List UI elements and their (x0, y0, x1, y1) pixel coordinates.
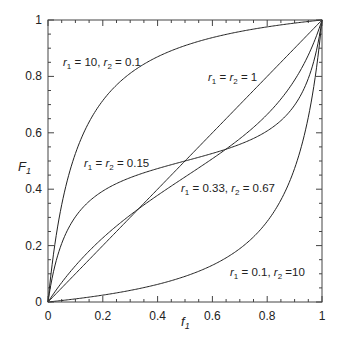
copolymer-composition-chart: 00.20.40.60.81 00.20.40.60.81 r1 = 10, r… (0, 0, 338, 343)
curve-annotation: r1 = 0.33, r2 = 0.67 (181, 182, 275, 197)
x-axis-title: f1 (181, 314, 190, 331)
x-tick-label: 0.8 (259, 309, 276, 323)
x-tick-label: 0.2 (94, 309, 111, 323)
y-tick-label: 0 (35, 295, 42, 309)
y-tick-label: 0.2 (25, 239, 42, 253)
y-tick-label: 0.4 (25, 182, 42, 196)
curve-annotation: r1 = r2 = 0.15 (84, 157, 149, 172)
y-tick-label: 0.6 (25, 126, 42, 140)
y-tick-label: 1 (35, 13, 42, 27)
y-tick-label: 0.8 (25, 69, 42, 83)
curve-annotation: r1 = r2 = 1 (208, 71, 257, 86)
y-axis-title: F1 (18, 159, 31, 176)
x-tick-label: 0 (45, 309, 52, 323)
y-tick-labels: 00.20.40.60.81 (25, 13, 42, 309)
x-tick-label: 0.6 (204, 309, 221, 323)
x-tick-label: 1 (319, 309, 326, 323)
curve-annotations: r1 = 10, r2 = 0.1r1 = r2 = 1r1 = r2 = 0.… (63, 56, 305, 281)
curve-annotation: r1 = 0.1, r2 =10 (230, 266, 305, 281)
x-tick-label: 0.4 (149, 309, 166, 323)
curve-annotation: r1 = 10, r2 = 0.1 (63, 56, 141, 71)
